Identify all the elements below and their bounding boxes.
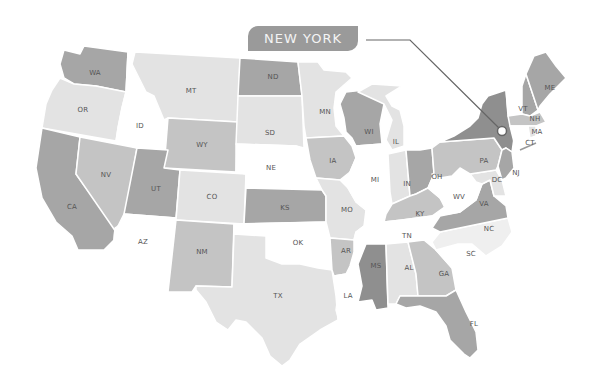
state-az[interactable] [112, 214, 176, 292]
state-ar[interactable] [330, 238, 354, 276]
label-nh: NH [530, 115, 541, 123]
label-or: OR [78, 106, 89, 114]
label-ut: UT [151, 185, 161, 193]
label-mt: MT [186, 87, 197, 95]
label-wi: WI [364, 128, 373, 136]
label-in: IN [403, 180, 411, 188]
callout-label-box: NEW YORK [248, 26, 358, 51]
label-nc: NC [484, 225, 495, 233]
label-ca: CA [67, 203, 77, 211]
label-sd: SD [265, 129, 275, 137]
label-ga: GA [439, 270, 450, 278]
label-nv: NV [101, 171, 111, 179]
us-states-map: WA OR CA NV ID MT WY UT AZ CO NM ND SD N… [0, 0, 604, 378]
label-nj: NJ [512, 169, 520, 177]
label-ms: MS [371, 262, 382, 270]
label-ok: OK [293, 239, 304, 247]
label-id: ID [136, 122, 144, 130]
label-nm: NM [196, 248, 208, 256]
label-ky: KY [415, 210, 425, 218]
label-vt: VT [518, 105, 528, 113]
label-oh: OH [431, 173, 442, 181]
label-mn: MN [319, 108, 331, 116]
label-la: LA [343, 292, 352, 300]
label-ks: KS [280, 204, 290, 212]
state-sd[interactable] [236, 96, 304, 148]
label-ne: NE [266, 164, 276, 172]
label-me: ME [545, 84, 556, 92]
label-il: MI [371, 176, 380, 184]
label-ia: IA [329, 157, 336, 165]
state-fl[interactable] [396, 290, 478, 358]
label-ct: CT [525, 139, 535, 147]
label-al: AL [404, 264, 413, 272]
label-wv: WV [453, 193, 465, 201]
label-co: CO [207, 193, 218, 201]
label-ma: MA [531, 128, 542, 136]
label-dc: DC [492, 176, 503, 184]
state-ms[interactable] [358, 244, 388, 310]
label-nd: ND [267, 73, 278, 81]
label-mi: IL [393, 138, 399, 146]
label-tx: TX [272, 292, 282, 300]
label-sc: SC [466, 250, 476, 258]
label-pa: PA [480, 157, 489, 165]
label-az: AZ [138, 238, 148, 246]
state-nm[interactable] [168, 220, 234, 292]
new-york-marker[interactable] [498, 127, 507, 136]
label-mo: MO [341, 206, 353, 214]
label-wy: WY [196, 141, 208, 149]
callout-label: NEW YORK [264, 31, 342, 46]
label-ar: AR [341, 247, 351, 255]
label-fl: FL [470, 320, 478, 328]
label-va: VA [479, 200, 489, 208]
label-wa: WA [89, 69, 101, 77]
label-tn: TN [401, 232, 412, 240]
